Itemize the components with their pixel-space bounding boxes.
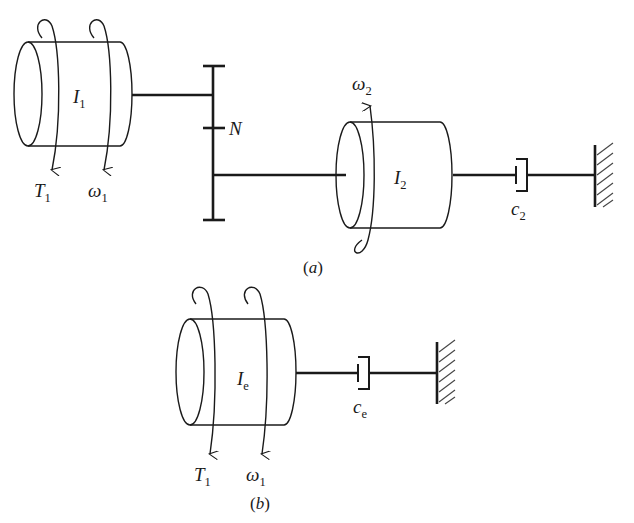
part-b: Ie T1 ω1 ce (b)	[176, 287, 455, 513]
equivalent-inertia-label: Ie	[236, 368, 249, 393]
fixed-wall	[437, 340, 455, 404]
damper-2-label: c2	[511, 198, 526, 223]
gear-ratio-label: N	[228, 118, 243, 139]
equivalent-damper	[358, 357, 369, 389]
caption-a: (a)	[303, 258, 323, 277]
caption-b: (b)	[250, 494, 270, 513]
damper-2	[516, 159, 527, 191]
equivalent-damper-label: ce	[353, 396, 367, 421]
inertia-2-label: I2	[393, 167, 407, 192]
omega-1-label: ω1	[88, 180, 108, 205]
omega-2-label: ω2	[352, 73, 372, 98]
diagram-canvas: I1 T1 ω1 N ω2 I2	[0, 0, 634, 523]
torque-1-label: T1	[34, 180, 51, 205]
angular-velocity-arrow-icon	[244, 287, 267, 454]
fixed-wall	[595, 143, 613, 207]
inertia-1-label: I1	[72, 86, 86, 111]
gear-pair	[203, 66, 225, 220]
torque-1-label: T1	[194, 464, 211, 489]
part-a: I1 T1 ω1 N ω2 I2	[14, 20, 613, 277]
omega-1-label: ω1	[246, 464, 266, 489]
equivalent-inertia-disk	[176, 319, 296, 425]
